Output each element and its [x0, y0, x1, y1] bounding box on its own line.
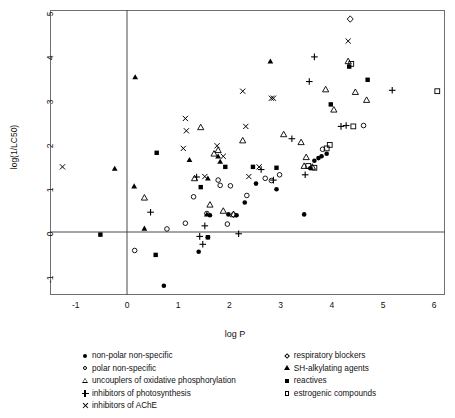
- legend-item[interactable]: inhibitors of AChE: [78, 400, 266, 412]
- legend: non-polar non-specificpolar non-specific…: [78, 350, 438, 412]
- y-tick-label: 5: [46, 12, 55, 38]
- legend-label: non-polar non-specific: [92, 350, 173, 361]
- y-axis-label: log(1/LC50): [9, 107, 19, 187]
- x-tick-label: 6: [422, 300, 446, 310]
- plus-icon: [78, 388, 92, 399]
- y-tick-label: 0: [46, 232, 55, 258]
- x-axis-label: log P: [195, 329, 275, 339]
- y-tick-label: -1: [46, 276, 55, 302]
- legend-item[interactable]: inhibitors of photosynthesis: [78, 388, 266, 400]
- x-tick-label: 4: [320, 300, 344, 310]
- legend-item[interactable]: reactives: [280, 375, 438, 387]
- legend-column-right: respiratory blockersSH-alkylating agents…: [280, 350, 438, 412]
- cross-icon: [78, 400, 92, 411]
- open-triangle-icon: [78, 375, 92, 386]
- legend-item[interactable]: non-polar non-specific: [78, 350, 266, 362]
- y-tick-label: 1: [46, 188, 55, 214]
- x-tick-label: -1: [64, 300, 88, 310]
- y-tick-label: 2: [46, 144, 55, 170]
- x-tick-label: 5: [371, 300, 395, 310]
- legend-item[interactable]: polar non-specific: [78, 363, 266, 375]
- legend-label: estrogenic compounds: [294, 388, 376, 399]
- x-tick-label: 2: [217, 300, 241, 310]
- filled-circle-icon: [78, 350, 92, 361]
- legend-label: polar non-specific: [92, 363, 156, 374]
- open-circle-icon: [78, 363, 92, 374]
- filled-square-icon: [280, 375, 294, 386]
- x-tick-label: 0: [115, 300, 139, 310]
- filled-triangle-icon: [280, 363, 294, 374]
- legend-item[interactable]: estrogenic compounds: [280, 388, 438, 400]
- chart-page: 543210-1 -10123456 log(1/LC50) log P non…: [0, 0, 455, 418]
- legend-label: inhibitors of AChE: [92, 400, 157, 411]
- legend-item[interactable]: respiratory blockers: [280, 350, 438, 362]
- legend-label: uncouplers of oxidative phosphorylation: [92, 375, 236, 386]
- legend-label: inhibitors of photosynthesis: [92, 388, 191, 399]
- legend-label: respiratory blockers: [294, 350, 365, 361]
- legend-item[interactable]: SH-alkylating agents: [280, 363, 438, 375]
- x-tick-label: 3: [269, 300, 293, 310]
- legend-item[interactable]: uncouplers of oxidative phosphorylation: [78, 375, 266, 387]
- open-diamond-icon: [280, 350, 294, 361]
- open-square-icon: [280, 388, 294, 399]
- legend-label: reactives: [294, 375, 327, 386]
- legend-label: SH-alkylating agents: [294, 363, 369, 374]
- x-tick-label: 1: [166, 300, 190, 310]
- y-tick-label: 4: [46, 56, 55, 82]
- legend-column-left: non-polar non-specificpolar non-specific…: [78, 350, 266, 412]
- plot-area: [50, 10, 445, 295]
- y-tick-label: 3: [46, 100, 55, 126]
